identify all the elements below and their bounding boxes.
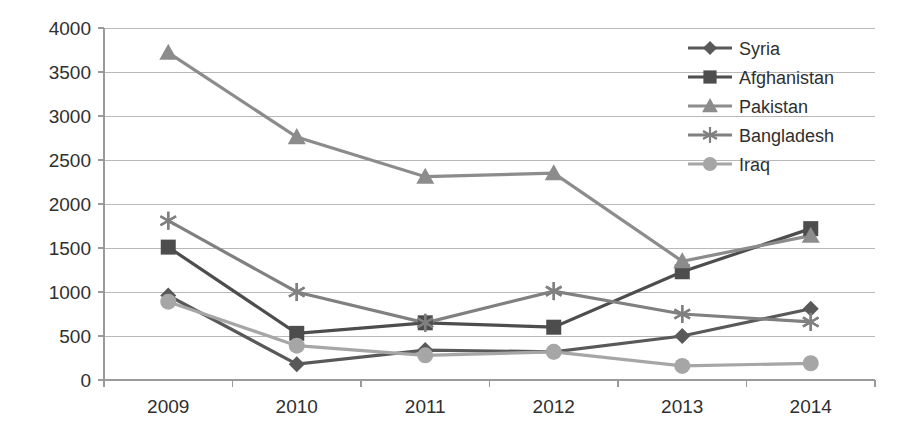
x-tick-label: 2010 — [276, 396, 318, 417]
data-point-pakistan-2009 — [159, 44, 177, 60]
x-tick-label: 2014 — [790, 396, 833, 417]
y-tick-label: 3500 — [49, 62, 91, 83]
legend-marker-diamond — [703, 41, 717, 55]
x-tick-label: 2009 — [147, 396, 189, 417]
data-point-syria-2010 — [289, 356, 305, 372]
data-point-iraq-2012 — [546, 344, 562, 360]
y-tick-label: 2500 — [49, 150, 91, 171]
legend-label: Afghanistan — [739, 68, 834, 88]
legend-label: Syria — [739, 39, 781, 59]
data-point-iraq-2014 — [803, 355, 819, 371]
series-line-afghanistan — [168, 229, 811, 334]
chart-legend: SyriaAfghanistanPakistanBangladeshIraq — [688, 39, 834, 175]
chart-canvas: 05001000150020002500300035004000 2009201… — [0, 0, 899, 442]
y-tick-label: 500 — [59, 326, 91, 347]
legend-label: Iraq — [739, 155, 770, 175]
x-tick-label: 2013 — [661, 396, 703, 417]
data-point-pakistan-2010 — [288, 128, 306, 144]
legend-item-afghanistan[interactable]: Afghanistan — [688, 68, 834, 88]
series-lines-group — [168, 53, 811, 366]
x-axis-tick-labels: 200920102011201220132014 — [147, 396, 832, 417]
legend-item-iraq[interactable]: Iraq — [688, 155, 770, 175]
y-tick-label: 4000 — [49, 18, 91, 39]
y-axis-tick-labels: 05001000150020002500300035004000 — [49, 18, 91, 391]
data-point-afghanistan-2009 — [161, 240, 176, 255]
y-tick-label: 1500 — [49, 238, 91, 259]
legend-item-syria[interactable]: Syria — [688, 39, 781, 59]
data-point-bangladesh-2009 — [160, 212, 176, 230]
y-tick-label: 2000 — [49, 194, 91, 215]
legend-item-pakistan[interactable]: Pakistan — [688, 97, 808, 117]
line-chart: 05001000150020002500300035004000 2009201… — [0, 0, 899, 442]
legend-label: Pakistan — [739, 97, 808, 117]
legend-item-bangladesh[interactable]: Bangladesh — [688, 126, 834, 146]
legend-marker-square — [703, 70, 716, 83]
data-point-iraq-2013 — [674, 358, 690, 374]
y-tick-label: 1000 — [49, 282, 91, 303]
legend-label: Bangladesh — [739, 126, 834, 146]
data-point-iraq-2010 — [289, 338, 305, 354]
data-point-syria-2013 — [674, 328, 690, 344]
y-tick-label: 3000 — [49, 106, 91, 127]
data-point-iraq-2009 — [160, 294, 176, 310]
x-tick-label: 2012 — [533, 396, 575, 417]
y-tick-label: 0 — [80, 370, 91, 391]
legend-marker-circle — [703, 157, 717, 171]
x-tick-label: 2011 — [405, 396, 446, 417]
series-line-pakistan — [168, 53, 811, 262]
data-point-afghanistan-2012 — [546, 320, 561, 335]
series-line-bangladesh — [168, 221, 811, 323]
data-point-iraq-2011 — [417, 347, 433, 363]
